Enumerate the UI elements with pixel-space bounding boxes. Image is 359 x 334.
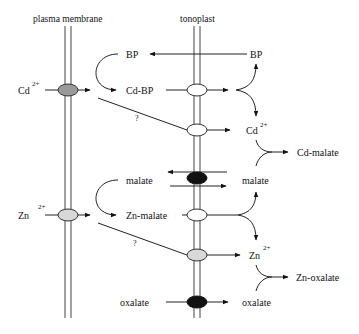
zn-direct-transporter [187,249,207,261]
cd-malate-label: Cd-malate [297,147,339,158]
zn-vacuole-ion-label: Zn [249,250,260,261]
plasma-membrane [65,26,71,318]
zn-vacuole-ion-charge: 2+ [263,244,271,252]
malate-transporter [187,172,207,184]
zn-ion-charge: 2+ [38,203,46,211]
zn-unknown-route-label: ? [133,239,137,248]
cd-uptake-transporter [58,84,78,96]
metal-transport-diagram: plasma membrane tonoplast Cd 2+ BP Cd-BP… [0,0,359,334]
cd-unknown-route-label: ? [135,114,139,123]
cd-direct-transporter [187,124,207,136]
oxalate-vacuole-label: oxalate [242,297,271,308]
cd-ion-charge: 2+ [32,80,40,88]
malate-vacuole-label: malate [242,175,269,186]
zn-malate-transporter [187,209,207,221]
cd-bp-label: Cd-BP [126,85,154,96]
tonoplast-label: tonoplast [180,14,215,24]
zn-ion-label: Zn [18,210,29,221]
cd-bp-transporter [187,84,207,96]
zn-uptake-transporter [58,209,78,221]
oxalate-cytosol-label: oxalate [120,297,149,308]
cd-ion-label: Cd [18,85,30,96]
oxalate-transporter [187,296,207,308]
zn-oxalate-label: Zn-oxalate [296,272,340,283]
cd-vacuole-ion-label: Cd [246,125,258,136]
bp-vacuole-label: BP [250,49,263,60]
bp-cytosol-label: BP [126,49,139,60]
cd-vacuole-ion-charge: 2+ [260,121,268,129]
malate-cytosol-label: malate [126,175,153,186]
plasma-membrane-label: plasma membrane [33,14,102,24]
zn-malate-label: Zn-malate [126,210,168,221]
